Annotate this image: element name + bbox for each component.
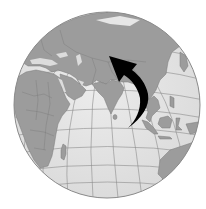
borneo <box>158 116 172 128</box>
philippines <box>170 96 174 108</box>
globe-map <box>0 0 206 209</box>
sri-lanka <box>113 115 117 120</box>
